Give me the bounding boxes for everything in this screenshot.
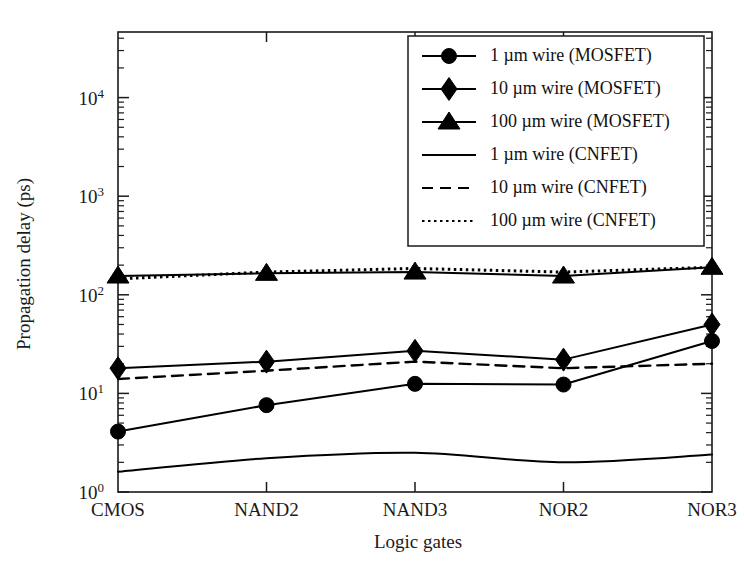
propagation-delay-line-chart: 100101102103104 CMOSNAND2NAND3NOR2NOR3 P…	[0, 0, 744, 576]
data-point-circle-marker	[111, 424, 126, 439]
chart-figure: 100101102103104 CMOSNAND2NAND3NOR2NOR3 P…	[0, 0, 744, 576]
x-tick-label: NAND3	[383, 499, 447, 520]
legend-label: 1 µm wire (MOSFET)	[490, 45, 652, 66]
legend-label: 1 µm wire (CNFET)	[490, 144, 638, 165]
legend-label: 100 µm wire (MOSFET)	[490, 111, 670, 132]
x-tick-label: NOR2	[539, 499, 589, 520]
x-tick-label: NOR3	[687, 499, 737, 520]
legend-label: 10 µm wire (CNFET)	[490, 177, 647, 198]
x-axis-title: Logic gates	[374, 531, 462, 552]
data-point-circle-marker	[442, 49, 457, 64]
legend-label: 10 µm wire (MOSFET)	[490, 78, 661, 99]
data-point-circle-marker	[705, 333, 720, 348]
data-point-circle-marker	[556, 377, 571, 392]
x-tick-label: NAND2	[234, 499, 298, 520]
data-point-circle-marker	[259, 398, 274, 413]
y-axis-title: Propagation delay (ps)	[13, 178, 35, 350]
data-point-circle-marker	[408, 376, 423, 391]
legend-label: 100 µm wire (CNFET)	[490, 210, 656, 231]
x-tick-label: CMOS	[91, 499, 145, 520]
chart-legend: 1 µm wire (MOSFET)10 µm wire (MOSFET)100…	[408, 36, 704, 246]
